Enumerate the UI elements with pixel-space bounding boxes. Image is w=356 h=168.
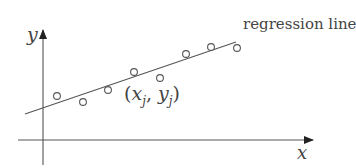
data-point: [183, 51, 190, 58]
x-axis-label: x: [297, 142, 307, 163]
data-point: [105, 87, 112, 94]
y-axis-label: y: [27, 23, 38, 45]
point-annotation: (xj, yj): [124, 82, 180, 108]
separator: ,: [146, 82, 158, 104]
point-y: y: [158, 82, 169, 104]
data-point: [80, 99, 87, 106]
data-point: [131, 69, 138, 76]
regression-line-label: regression line: [243, 15, 356, 33]
data-point: [54, 93, 61, 100]
data-point: [234, 45, 241, 52]
data-point: [208, 44, 215, 51]
data-point: [157, 75, 164, 82]
point-x: x: [131, 82, 142, 104]
paren-close: ): [172, 82, 179, 104]
